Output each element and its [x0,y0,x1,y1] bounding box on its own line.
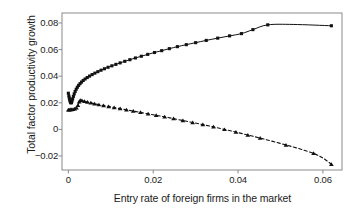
data-point-square [114,63,117,66]
data-point-square [168,47,171,50]
data-point-square [330,24,333,27]
series-upper-curve [68,24,331,103]
plot-area [0,0,358,215]
data-point-square [119,61,122,64]
data-point-square [176,45,179,48]
data-point-square [146,53,149,56]
data-point-square [266,23,269,26]
data-point-square [205,39,208,42]
data-point-square [67,92,70,95]
data-point-square [185,43,188,46]
data-point-square [93,72,96,75]
data-point-square [194,41,197,44]
data-point-square [153,51,156,54]
data-point-square [123,60,126,63]
markers-lower-curve [66,98,334,166]
data-point-square [140,55,143,58]
data-point-square [216,37,219,40]
data-point-square [96,70,99,73]
series-lower-curve [68,100,331,164]
data-point-square [160,49,163,52]
chart-figure: Total factor productivity growth Entry r… [0,0,358,215]
data-point-triangle [76,103,81,107]
data-point-square [106,66,109,69]
data-point-square [103,67,106,70]
data-point-square [99,69,102,72]
data-point-square [240,32,243,35]
series-line-upper-curve [68,24,331,103]
series-line-lower-curve [68,100,331,164]
data-point-square [228,34,231,37]
markers-upper-curve [67,23,333,104]
data-point-square [251,28,254,31]
data-point-square [128,58,131,61]
data-point-square [91,73,94,76]
data-point-square [110,64,113,67]
plot-frame [62,13,342,170]
data-point-square [134,56,137,59]
